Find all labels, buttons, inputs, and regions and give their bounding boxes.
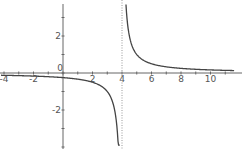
- x-tick-label: 6: [149, 74, 155, 84]
- curve-right-branch: [126, 4, 234, 70]
- y-tick-label: 2: [55, 31, 61, 41]
- y-tick-label: -2: [52, 105, 61, 115]
- function-plot: -4-20246810-22: [0, 0, 242, 149]
- x-tick-label: 10: [205, 74, 217, 84]
- x-tick-label: 8: [178, 74, 184, 84]
- x-tick-label: 0: [57, 63, 63, 73]
